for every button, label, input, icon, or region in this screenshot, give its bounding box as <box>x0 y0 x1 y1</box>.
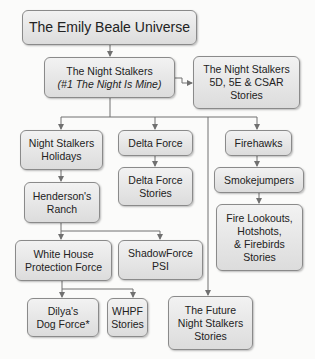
node-label: Stories <box>128 187 182 200</box>
node-label: & Firebirds <box>226 238 293 251</box>
node-label: Hotshots, <box>226 225 293 238</box>
node-label: Stories <box>203 89 289 102</box>
node-label: Stories <box>178 330 243 343</box>
node-label: 5D, 5E & CSAR <box>203 76 289 89</box>
node-label: White House <box>25 248 102 261</box>
node-emily-beale-universe: The Emily Beale Universe <box>22 10 197 45</box>
node-future-night-stalkers: The Future Night Stalkers Stories <box>168 296 253 350</box>
node-ns-5d-5e-csar: The Night Stalkers 5D, 5E & CSAR Stories <box>193 56 300 109</box>
node-label: Stories <box>111 318 144 331</box>
node-whpf-stories: WHPF Stories <box>107 298 148 337</box>
node-shadowforce-psi: ShadowForce PSI <box>118 240 203 280</box>
node-label: Protection Force <box>25 261 102 274</box>
node-the-night-stalkers: The Night Stalkers (#1 The Night Is Mine… <box>44 57 175 98</box>
node-label: Delta Force <box>128 137 182 150</box>
node-label: Dilya's <box>36 305 89 318</box>
node-label: Ranch <box>33 203 92 216</box>
node-smokejumpers: Smokejumpers <box>214 167 304 193</box>
node-label: Delta Force <box>128 174 182 187</box>
node-firehawks: Firehawks <box>225 130 292 156</box>
node-label: The Night Stalkers <box>58 65 162 78</box>
node-dilyas-dog-force: Dilya's Dog Force* <box>27 298 99 337</box>
node-delta-force: Delta Force <box>118 130 193 156</box>
node-white-house-protection-force: White House Protection Force <box>15 240 112 281</box>
node-label: PSI <box>128 260 193 273</box>
node-label: WHPF <box>111 305 144 318</box>
node-ns-holidays: Night Stalkers Holidays <box>20 130 103 170</box>
node-label: Firehawks <box>235 137 283 150</box>
node-label: Dog Force* <box>36 318 89 331</box>
node-delta-force-stories: Delta Force Stories <box>118 167 193 206</box>
node-label: The Night Stalkers <box>203 63 289 76</box>
node-fire-lookouts: Fire Lookouts, Hotshots, & Firebirds Sto… <box>216 204 303 271</box>
node-label: Night Stalkers <box>29 137 94 150</box>
node-label: Fire Lookouts, <box>226 212 293 225</box>
subtitle-book-title: The Night Is Mine <box>76 78 158 90</box>
subtitle-prefix: (#1 <box>58 78 76 90</box>
node-label: Holidays <box>29 150 94 163</box>
node-label: Night Stalkers <box>178 317 243 330</box>
node-label: Henderson's <box>33 190 92 203</box>
node-subtitle: (#1 The Night Is Mine) <box>58 78 162 91</box>
node-label: The Future <box>178 304 243 317</box>
edge-night-stalkers-5d <box>175 78 192 83</box>
node-hendersons-ranch: Henderson's Ranch <box>24 182 100 223</box>
subtitle-suffix: ) <box>158 78 162 90</box>
node-label: ShadowForce <box>128 247 193 260</box>
node-label: Stories <box>226 251 293 264</box>
node-label: The Emily Beale Universe <box>29 21 190 34</box>
node-label: Smokejumpers <box>224 174 294 187</box>
